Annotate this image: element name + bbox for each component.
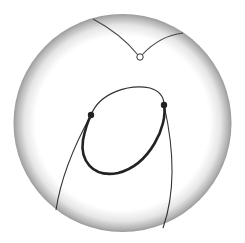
disk-boundary <box>14 14 232 232</box>
right-point-marker <box>161 102 167 108</box>
left-point-marker <box>88 112 94 118</box>
disk-diagram <box>0 0 245 243</box>
open-point-marker <box>137 54 143 60</box>
